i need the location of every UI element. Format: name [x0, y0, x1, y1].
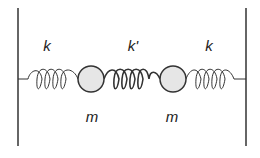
label-mass-left: m [86, 108, 99, 125]
label-spring-left: k [43, 37, 51, 54]
mass-right [160, 66, 186, 92]
label-spring-middle: k' [128, 37, 138, 54]
label-mass-right: m [166, 108, 179, 125]
mass-left [78, 66, 104, 92]
spring-right [186, 69, 246, 89]
spring-mass-diagram [0, 0, 260, 158]
spring-middle [104, 69, 160, 89]
label-spring-right: k [205, 37, 213, 54]
spring-left [18, 69, 78, 89]
